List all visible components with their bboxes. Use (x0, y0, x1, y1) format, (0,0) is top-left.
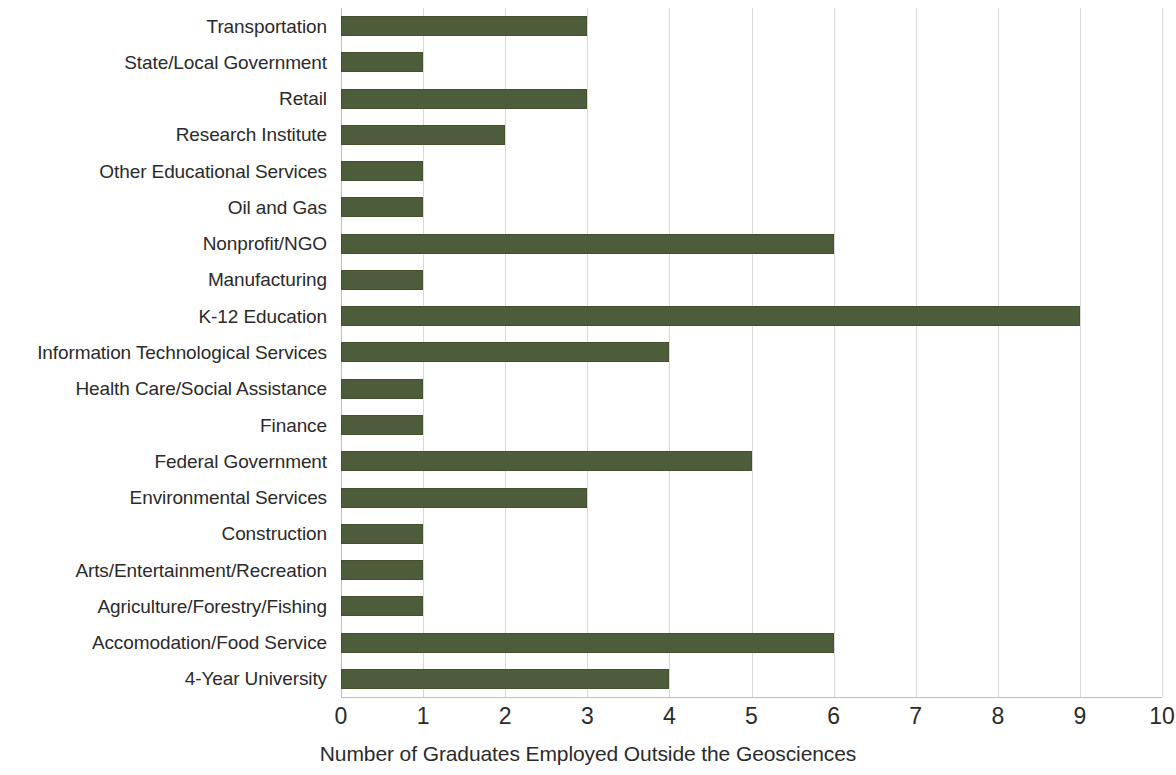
gridline-10 (1162, 8, 1163, 697)
bar[interactable] (341, 270, 423, 290)
bar[interactable] (341, 16, 587, 36)
bar[interactable] (341, 488, 587, 508)
x-tick-label: 8 (991, 703, 1004, 731)
y-axis-label: Finance (0, 407, 327, 443)
y-axis-label: Arts/Entertainment/Recreation (0, 552, 327, 588)
x-tick-label: 9 (1073, 703, 1086, 731)
bar-row (341, 117, 1162, 153)
y-axis-label: Nonprofit/NGO (0, 226, 327, 262)
y-axis-label: State/Local Government (0, 44, 327, 80)
bar-row (341, 8, 1162, 44)
bar-row (341, 661, 1162, 697)
y-axis-label: Federal Government (0, 443, 327, 479)
plot-area (341, 8, 1162, 697)
bar-row (341, 44, 1162, 80)
x-tick-label: 2 (499, 703, 512, 731)
bar[interactable] (341, 161, 423, 181)
bar-row (341, 552, 1162, 588)
x-tick-label: 6 (827, 703, 840, 731)
x-tick-label: 7 (909, 703, 922, 731)
x-tick-label: 1 (417, 703, 430, 731)
bar-row (341, 226, 1162, 262)
bar-row (341, 588, 1162, 624)
y-axis-label: Transportation (0, 8, 327, 44)
bar-row (341, 443, 1162, 479)
y-axis-label: Oil and Gas (0, 189, 327, 225)
bar[interactable] (341, 415, 423, 435)
y-axis-label: Health Care/Social Assistance (0, 371, 327, 407)
bar-row (341, 371, 1162, 407)
bar[interactable] (341, 306, 1080, 326)
bar-row (341, 516, 1162, 552)
y-axis-label: Other Educational Services (0, 153, 327, 189)
bar[interactable] (341, 451, 752, 471)
y-axis-label: Manufacturing (0, 262, 327, 298)
y-axis-label: K-12 Education (0, 298, 327, 334)
bar[interactable] (341, 52, 423, 72)
bar-rows (341, 8, 1162, 697)
bar[interactable] (341, 669, 669, 689)
bar-row (341, 189, 1162, 225)
x-tick-label: 0 (335, 703, 348, 731)
bar-row (341, 479, 1162, 515)
bar[interactable] (341, 524, 423, 544)
x-tick-label: 5 (745, 703, 758, 731)
bar-row (341, 298, 1162, 334)
bar-row (341, 153, 1162, 189)
bar[interactable] (341, 234, 834, 254)
y-axis-label: Information Technological Services (0, 334, 327, 370)
bar[interactable] (341, 197, 423, 217)
x-axis-baseline (341, 697, 1162, 698)
bar-chart: TransportationState/Local GovernmentReta… (0, 0, 1176, 775)
bar[interactable] (341, 89, 587, 109)
y-axis-label: Environmental Services (0, 479, 327, 515)
y-axis-label: Research Institute (0, 117, 327, 153)
bar-row (341, 334, 1162, 370)
bar[interactable] (341, 125, 505, 145)
y-axis-category-labels: TransportationState/Local GovernmentReta… (0, 8, 327, 697)
x-tick-label: 3 (581, 703, 594, 731)
bar[interactable] (341, 633, 834, 653)
x-tick-label: 10 (1149, 703, 1175, 731)
bar[interactable] (341, 342, 669, 362)
bar[interactable] (341, 596, 423, 616)
x-tick-label: 4 (663, 703, 676, 731)
y-axis-label: Construction (0, 516, 327, 552)
x-axis-tick-labels: 012345678910 (0, 703, 1176, 735)
bar-row (341, 407, 1162, 443)
y-axis-label: Retail (0, 81, 327, 117)
y-axis-label: Agriculture/Forestry/Fishing (0, 588, 327, 624)
y-axis-label: Accomodation/Food Service (0, 624, 327, 660)
bar-row (341, 624, 1162, 660)
bar-row (341, 81, 1162, 117)
x-axis-title: Number of Graduates Employed Outside the… (0, 742, 1176, 766)
bar-row (341, 262, 1162, 298)
bar[interactable] (341, 379, 423, 399)
y-axis-label: 4-Year University (0, 661, 327, 697)
bar[interactable] (341, 560, 423, 580)
